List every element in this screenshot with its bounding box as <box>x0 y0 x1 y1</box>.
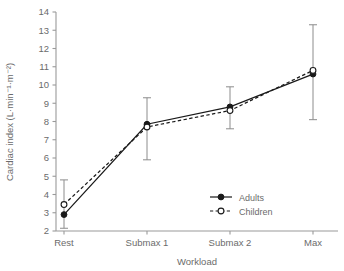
series-line-adults <box>64 74 313 215</box>
x-category-label: Max <box>304 237 322 248</box>
data-point-children-rest <box>61 202 67 208</box>
y-tick-label: 7 <box>44 134 49 145</box>
y-tick-label: 9 <box>44 98 49 109</box>
legend-label-children: Children <box>239 207 273 217</box>
x-category-label: Submax 2 <box>209 237 252 248</box>
legend-marker-children <box>218 208 224 214</box>
y-tick-label: 5 <box>44 171 49 182</box>
x-category-label: Rest <box>54 237 74 248</box>
y-axis-title: Cardiac index (L·min⁻¹·m⁻²) <box>4 63 15 181</box>
y-tick-label: 6 <box>44 152 49 163</box>
x-axis-category-labels: RestSubmax 1Submax 2Max <box>54 237 322 248</box>
data-point-adults-rest <box>61 212 67 218</box>
y-axis-tick-labels: 234567891011121314 <box>38 6 49 236</box>
x-axis-title: Workload <box>177 256 217 267</box>
legend-item-adults: Adults <box>210 193 265 203</box>
data-point-children-max <box>310 68 316 74</box>
legend-item-children: Children <box>210 207 273 217</box>
series-markers <box>61 68 316 218</box>
y-tick-label: 12 <box>38 43 49 54</box>
x-category-label: Submax 1 <box>126 237 169 248</box>
y-tick-label: 2 <box>44 225 49 236</box>
y-tick-label: 10 <box>38 79 49 90</box>
y-tick-label: 14 <box>38 6 49 17</box>
data-point-children-submax-1 <box>144 124 150 130</box>
plot-area: 234567891011121314 RestSubmax 1Submax 2M… <box>0 0 344 271</box>
series-line-children <box>64 70 313 204</box>
y-tick-label: 3 <box>44 207 49 218</box>
legend-marker-adults <box>218 194 224 200</box>
y-tick-label: 4 <box>44 189 49 200</box>
series-lines <box>64 70 313 214</box>
legend-label-adults: Adults <box>239 193 265 203</box>
data-point-children-submax-2 <box>227 108 233 114</box>
error-bars <box>60 25 317 228</box>
y-tick-label: 8 <box>44 116 49 127</box>
y-tick-label: 11 <box>39 61 49 72</box>
cardiac-index-line-chart: 234567891011121314 RestSubmax 1Submax 2M… <box>0 0 344 271</box>
legend: Adults Children <box>210 193 273 217</box>
y-tick-label: 13 <box>38 25 49 36</box>
